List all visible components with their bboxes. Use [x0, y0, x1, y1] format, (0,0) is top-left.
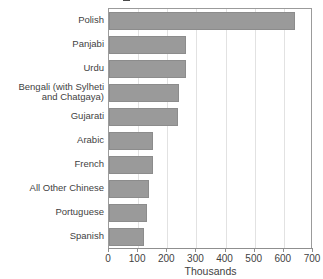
tick-label-500: 500: [245, 253, 262, 264]
tick-label-0: 0: [105, 253, 111, 264]
bar: [109, 180, 149, 198]
category-label: Polish: [0, 15, 104, 26]
value-axis: 0100200300400500600700: [108, 248, 313, 254]
bar-row: [109, 177, 149, 201]
tick-600: [283, 248, 284, 252]
category-label: French: [0, 159, 104, 170]
category-label: Panjabi: [0, 39, 104, 50]
bar: [109, 12, 295, 30]
tick-0: [108, 248, 109, 252]
bar-series: [109, 9, 311, 248]
category-label: Bengali (with Sylheti and Chatgaya): [0, 82, 104, 103]
bar-row: [109, 201, 147, 225]
tick-400: [225, 248, 226, 252]
bar: [109, 60, 186, 78]
bar-row: [109, 33, 186, 57]
category-label: Gujarati: [0, 111, 104, 122]
bar-row: [109, 9, 295, 33]
category-label: Arabic: [0, 135, 104, 146]
tick-700: [312, 248, 313, 252]
tick-label-200: 200: [158, 253, 175, 264]
x-axis-title: Thousands: [108, 265, 313, 277]
tick-label-600: 600: [275, 253, 292, 264]
tick-label-100: 100: [129, 253, 146, 264]
category-label: Spanish: [0, 231, 104, 242]
bar-row: [109, 81, 179, 105]
bar-row: [109, 153, 153, 177]
bar-row: [109, 225, 144, 249]
bar: [109, 228, 144, 246]
bar: [109, 36, 186, 54]
tick-300: [195, 248, 196, 252]
category-label: Urdu: [0, 63, 104, 74]
tick-label-400: 400: [216, 253, 233, 264]
bar: [109, 204, 147, 222]
bar-row: [109, 129, 153, 153]
bar-row: [109, 57, 186, 81]
category-axis-labels: PolishPanjabiUrduBengali (with Sylheti a…: [0, 8, 104, 248]
bar-chart-figure: PolishPanjabiUrduBengali (with Sylheti a…: [0, 0, 323, 279]
tick-200: [166, 248, 167, 252]
bar: [109, 156, 153, 174]
clipped-title-glyph: [123, 0, 130, 1]
plot-area: [108, 8, 312, 248]
bar: [109, 108, 178, 126]
category-label: Portuguese: [0, 207, 104, 218]
bar: [109, 84, 179, 102]
bar: [109, 132, 153, 150]
tick-500: [254, 248, 255, 252]
category-label: All Other Chinese: [0, 183, 104, 194]
tick-label-300: 300: [187, 253, 204, 264]
bar-row: [109, 105, 178, 129]
tick-100: [137, 248, 138, 252]
tick-label-700: 700: [304, 253, 321, 264]
